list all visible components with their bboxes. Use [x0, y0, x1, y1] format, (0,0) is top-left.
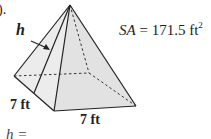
- surface-area-value: = 171.5 ft: [136, 22, 199, 38]
- square-pyramid-diagram: [0, 0, 211, 139]
- surface-area-label: SA = 171.5 ft2: [119, 22, 203, 39]
- surface-area-exponent: 2: [198, 20, 203, 30]
- problem-number: ).: [0, 2, 6, 18]
- slant-height-label: h: [16, 21, 25, 39]
- base-side-label-front: 7 ft: [80, 112, 100, 128]
- base-side-label-left: 7 ft: [10, 97, 30, 113]
- surface-area-var: SA: [119, 22, 136, 38]
- answer-prompt: h =: [6, 126, 27, 139]
